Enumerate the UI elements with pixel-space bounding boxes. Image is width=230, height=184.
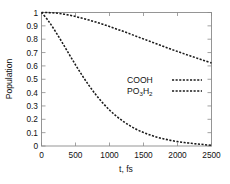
y-tick-label: 0.4 <box>26 88 38 98</box>
legend-label-po3h2: PO3H2 <box>127 86 153 97</box>
x-tick-label: 1500 <box>134 150 153 160</box>
y-tick-labels: 0 0.1 0.2 0.3 0.4 0.5 0.6 0.7 0.8 0.9 1 <box>26 8 38 152</box>
series-line-cooh <box>42 13 212 63</box>
y-tick-label: 0.5 <box>26 74 38 84</box>
y-tick-label: 0.8 <box>26 34 38 44</box>
x-axis-title: t, fs <box>119 164 133 174</box>
chart-figure: 0 0.1 0.2 0.3 0.4 0.5 0.6 0.7 0.8 0.9 1 … <box>0 0 230 184</box>
x-tick-label: 2000 <box>168 150 187 160</box>
x-tick-label: 500 <box>69 150 83 160</box>
x-tick-label: 2500 <box>202 150 221 160</box>
x-tick-labels: 0 500 1000 1500 2000 2500 <box>39 150 221 160</box>
population-decay-line-chart: 0 0.1 0.2 0.3 0.4 0.5 0.6 0.7 0.8 0.9 1 … <box>0 0 230 184</box>
y-tick-label: 0.7 <box>26 48 38 58</box>
legend-po3h2-part-3: 2 <box>149 90 153 97</box>
y-tick-label: 0 <box>33 141 38 151</box>
legend-label-cooh: COOH <box>127 75 153 85</box>
y-tick-label: 0.2 <box>26 114 38 124</box>
y-tick-label: 0.3 <box>26 101 38 111</box>
x-tick-label: 1000 <box>100 150 119 160</box>
y-tick-label: 0.9 <box>26 21 38 31</box>
y-axis-title: Population <box>4 58 14 99</box>
x-tick-label: 0 <box>39 150 44 160</box>
legend-po3h2-part-0: PO <box>127 86 140 96</box>
y-tick-label: 1 <box>33 8 38 18</box>
chart-legend: COOH PO3H2 <box>127 75 202 97</box>
y-tick-label: 0.6 <box>26 61 38 71</box>
y-tick-label: 0.1 <box>26 128 38 138</box>
